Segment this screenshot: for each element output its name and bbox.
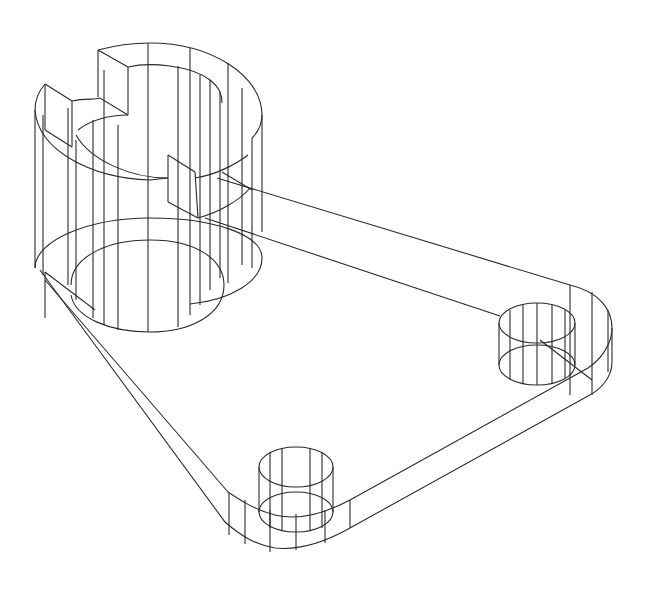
pin-boss-right (499, 303, 575, 385)
cad-wireframe-drawing (0, 0, 650, 603)
base-plate (40, 178, 612, 552)
wireframe-svg (0, 0, 650, 603)
large-cylinder-boss (35, 43, 262, 332)
